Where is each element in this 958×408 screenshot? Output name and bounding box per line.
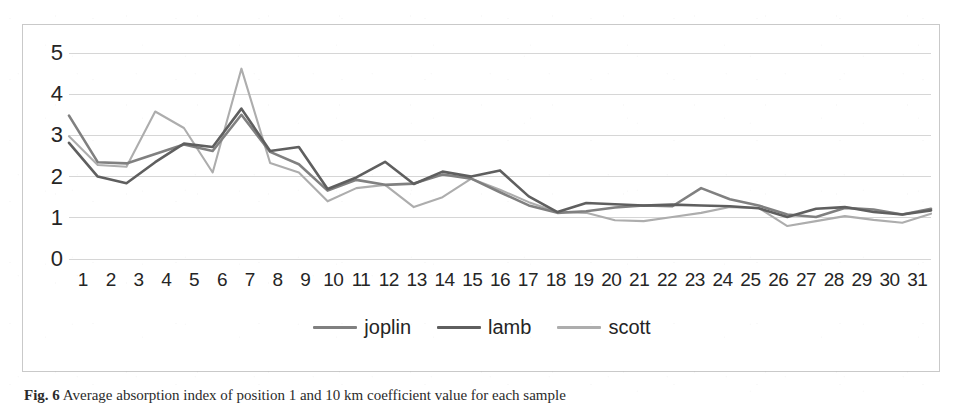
y-axis-tick-4: 4	[33, 83, 63, 105]
x-axis-tick-15: 15	[458, 265, 486, 299]
x-axis-tick-16: 16	[486, 265, 514, 299]
x-axis-tick-1: 1	[69, 265, 97, 299]
x-axis-tick-23: 23	[681, 265, 709, 299]
x-axis-tick-28: 28	[820, 265, 848, 299]
x-axis-tick-27: 27	[792, 265, 820, 299]
x-axis-tick-31: 31	[903, 265, 931, 299]
legend-item-joplin[interactable]: joplin	[313, 317, 411, 337]
x-axis-tick-4: 4	[152, 265, 180, 299]
plot-svg	[69, 53, 931, 259]
y-axis-tick-2: 2	[33, 166, 63, 188]
x-axis-tick-10: 10	[319, 265, 347, 299]
legend-swatch-joplin	[313, 326, 357, 329]
figure-container: 543210 123456789101112131415161718192021…	[0, 0, 958, 408]
x-axis-tick-24: 24	[709, 265, 737, 299]
legend-item-scott[interactable]: scott	[557, 317, 650, 337]
x-axis-tick-9: 9	[292, 265, 320, 299]
figure-caption: Fig. 6 Average absorption index of posit…	[24, 386, 934, 405]
y-axis: 543210	[23, 53, 63, 259]
x-axis-tick-21: 21	[625, 265, 653, 299]
x-axis-tick-29: 29	[848, 265, 876, 299]
x-axis-tick-13: 13	[403, 265, 431, 299]
caption-label: Fig. 6	[24, 387, 60, 403]
x-axis: 1234567891011121314151617181920212223242…	[69, 265, 931, 299]
series-line-joplin	[69, 115, 931, 217]
plot-area	[69, 53, 931, 259]
x-axis-tick-6: 6	[208, 265, 236, 299]
x-axis-tick-7: 7	[236, 265, 264, 299]
chart-legend: joplinlambscott	[23, 317, 941, 337]
y-axis-tick-5: 5	[33, 42, 63, 64]
x-axis-tick-5: 5	[180, 265, 208, 299]
x-axis-tick-12: 12	[375, 265, 403, 299]
x-axis-tick-19: 19	[570, 265, 598, 299]
series-lines	[69, 69, 931, 226]
x-axis-tick-22: 22	[653, 265, 681, 299]
legend-item-lamb[interactable]: lamb	[437, 317, 531, 337]
x-axis-tick-17: 17	[514, 265, 542, 299]
legend-swatch-lamb	[437, 326, 481, 329]
chart-frame: 543210 123456789101112131415161718192021…	[22, 24, 940, 372]
x-axis-tick-8: 8	[264, 265, 292, 299]
x-axis-tick-18: 18	[542, 265, 570, 299]
legend-label-lamb: lamb	[488, 317, 531, 337]
series-line-lamb	[69, 109, 931, 217]
x-axis-tick-30: 30	[876, 265, 904, 299]
x-axis-tick-25: 25	[737, 265, 765, 299]
x-axis-tick-14: 14	[431, 265, 459, 299]
y-axis-tick-3: 3	[33, 124, 63, 146]
legend-label-scott: scott	[608, 317, 650, 337]
x-axis-tick-11: 11	[347, 265, 375, 299]
y-axis-tick-1: 1	[33, 207, 63, 229]
legend-swatch-scott	[557, 326, 601, 329]
y-axis-tick-0: 0	[33, 248, 63, 270]
x-axis-tick-3: 3	[125, 265, 153, 299]
legend-label-joplin: joplin	[364, 317, 411, 337]
x-axis-tick-26: 26	[764, 265, 792, 299]
x-axis-tick-2: 2	[97, 265, 125, 299]
gridlines	[69, 53, 931, 259]
caption-text: Average absorption index of position 1 a…	[63, 387, 566, 403]
x-axis-tick-20: 20	[597, 265, 625, 299]
